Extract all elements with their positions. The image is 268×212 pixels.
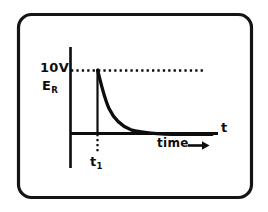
y-axis-label: ER [42, 79, 58, 92]
t1-label-text: t [90, 154, 97, 169]
decay-curve [98, 70, 212, 134]
diagram-canvas [0, 0, 268, 212]
time-axis-label: time [157, 137, 189, 149]
figure-frame [19, 15, 252, 198]
t1-label: t1 [90, 155, 102, 168]
time-arrow-icon [188, 141, 210, 150]
t1-label-subscript: 1 [97, 161, 103, 171]
figure-container: 10V ER t1 time t [0, 0, 268, 212]
y-axis-label-text: E [42, 78, 51, 93]
y-axis-label-subscript: R [51, 85, 58, 95]
peak-value-label: 10V [40, 61, 69, 74]
x-axis-label: t [221, 121, 228, 134]
